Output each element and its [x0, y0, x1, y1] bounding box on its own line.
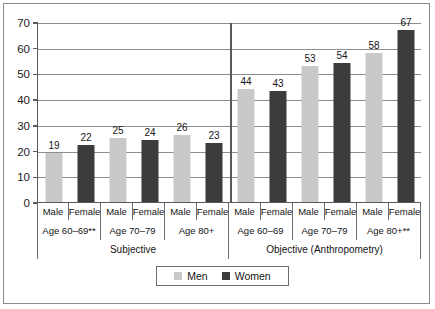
bar-men-44: 44 [238, 89, 255, 202]
y-tick-label-70: 70 [0, 17, 30, 29]
sex-cell-male: Male [165, 203, 197, 220]
age-group-cell: Age 80+** [357, 220, 421, 240]
sex-cell-female: Female [133, 203, 165, 220]
y-tick-label-60: 60 [0, 43, 30, 55]
legend-swatch-men [174, 272, 182, 280]
sex-cell-male: Male [229, 203, 261, 220]
sex-cell-female: Female [261, 203, 293, 220]
category-table: MaleFemaleMaleFemaleMaleFemaleMaleFemale… [37, 203, 421, 261]
bar-value-label: 22 [80, 132, 91, 143]
y-tick-label-10: 10 [0, 171, 30, 183]
legend-entry-men: Men [174, 270, 207, 282]
plot-area: 010203040506070 192225242623444353545867 [37, 23, 421, 203]
sex-cell-female: Female [69, 203, 101, 220]
bar-value-label: 67 [400, 17, 411, 28]
bar-men-26: 26 [174, 135, 191, 202]
bar-value-label: 19 [48, 140, 59, 151]
bar-women-22: 22 [78, 145, 95, 202]
bar-value-label: 43 [272, 78, 283, 89]
bar-cell: 43 [262, 23, 294, 202]
bar-cell: 53 [294, 23, 326, 202]
sex-cell-male: Male [357, 203, 389, 220]
legend-entry-women: Women [222, 270, 271, 282]
age-group-cell: Age 60–69** [37, 220, 101, 240]
bar-value-label: 44 [240, 76, 251, 87]
bar-value-label: 25 [112, 125, 123, 136]
bar-cell: 24 [134, 23, 166, 202]
y-tick-label-0: 0 [0, 197, 30, 209]
y-tick-label-40: 40 [0, 94, 30, 106]
measurement-type-cell: Objective (Anthropometry) [229, 240, 421, 259]
measurement-type-row: SubjectiveObjective (Anthropometry) [37, 240, 421, 259]
group-divider [230, 23, 232, 202]
bar-women-67: 67 [398, 30, 415, 202]
sex-cell-male: Male [293, 203, 325, 220]
bar-women-23: 23 [206, 143, 223, 202]
bar-value-label: 53 [304, 53, 315, 64]
sex-cell-female: Female [325, 203, 357, 220]
sex-cell-female: Female [389, 203, 421, 220]
bar-cell: 58 [358, 23, 390, 202]
bar-value-label: 26 [176, 122, 187, 133]
age-group-cell: Age 80+ [165, 220, 229, 240]
bar-value-label: 54 [336, 50, 347, 61]
y-tick-label-50: 50 [0, 68, 30, 80]
bar-men-25: 25 [110, 138, 127, 202]
legend-swatch-women [222, 272, 230, 280]
age-group-row: Age 60–69**Age 70–79Age 80+Age 60–69Age … [37, 220, 421, 240]
bar-value-label: 58 [368, 40, 379, 51]
sex-cell-male: Male [101, 203, 133, 220]
bar-cell: 26 [166, 23, 198, 202]
chart-figure: 010203040506070 192225242623444353545867… [3, 3, 430, 304]
bar-women-24: 24 [142, 140, 159, 202]
y-tick-label-20: 20 [0, 146, 30, 158]
sex-cell-female: Female [197, 203, 229, 220]
measurement-type-cell: Subjective [37, 240, 229, 259]
bar-cell: 22 [70, 23, 102, 202]
age-group-cell: Age 70–79 [101, 220, 165, 240]
legend-label: Women [235, 270, 271, 282]
bar-cell: 44 [230, 23, 262, 202]
bar-men-53: 53 [302, 66, 319, 202]
sex-row: MaleFemaleMaleFemaleMaleFemaleMaleFemale… [37, 203, 421, 220]
bar-value-label: 24 [144, 127, 155, 138]
y-tick-label-30: 30 [0, 120, 30, 132]
bar-cell: 19 [38, 23, 70, 202]
legend-label: Men [187, 270, 207, 282]
bar-cell: 25 [102, 23, 134, 202]
bar-women-43: 43 [270, 91, 287, 202]
bar-cell: 54 [326, 23, 358, 202]
bar-women-54: 54 [334, 63, 351, 202]
bar-value-label: 23 [208, 130, 219, 141]
age-group-cell: Age 70–79 [293, 220, 357, 240]
bar-men-19: 19 [46, 153, 63, 202]
bar-cell: 67 [390, 23, 422, 202]
sex-cell-male: Male [37, 203, 69, 220]
age-group-cell: Age 60–69 [229, 220, 293, 240]
bar-men-58: 58 [366, 53, 383, 202]
bar-cell: 23 [198, 23, 230, 202]
legend: MenWomen [156, 266, 289, 286]
